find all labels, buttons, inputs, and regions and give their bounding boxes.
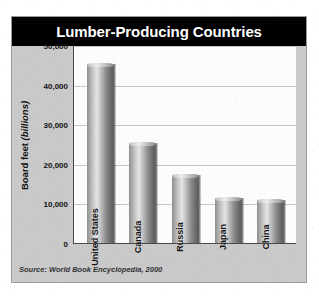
chart-figure: Lumber-Producing Countries Board feet (b… [11,16,307,283]
bar-slot: China [256,46,286,243]
bar-slot: Japan [213,46,243,243]
y-axis-tick-label: 30,000 [44,121,68,130]
bar[interactable]: China [257,200,284,243]
bar-category-label: Japan [218,224,228,250]
bar-slot: Russia [170,46,200,243]
chart-body: Board feet (billions) 010,00020,00030,00… [12,46,306,282]
bar-category-label: China [261,224,271,249]
bar-top-cap [257,199,284,203]
bar-top-cap [215,197,242,201]
y-axis-tick-label: 40,000 [44,81,68,90]
bar-category-label: United States [90,208,100,266]
bar-category-label: Canada [133,221,143,254]
plot-area: United StatesCanadaRussiaJapanChina [73,46,296,244]
bar[interactable]: Canada [129,143,156,243]
bar-top-cap [172,174,199,178]
source-note: Source: World Book Encyclopedia, 2000 [19,265,162,274]
bars-container: United StatesCanadaRussiaJapanChina [74,46,296,243]
y-axis-title-main: Board feet [20,140,31,190]
y-axis-tick-label: 20,000 [44,160,68,169]
chart-title: Lumber-Producing Countries [56,23,262,40]
y-axis-title: Board feet (billions) [16,46,34,244]
y-axis-tick-label: 0 [64,240,68,249]
bar-top-cap [87,63,114,67]
bar[interactable]: Japan [215,198,242,243]
bar-slot: Canada [128,46,158,243]
bar-category-label: Russia [175,222,185,252]
y-axis-tick-label: 50,000 [44,42,68,51]
bar[interactable]: United States [87,64,114,243]
bar[interactable]: Russia [172,175,199,243]
y-axis-title-units: (billions) [20,100,31,140]
y-axis-tick-labels: 010,00020,00030,00040,00050,000 [34,46,70,244]
y-axis-tick-label: 10,000 [44,200,68,209]
bar-slot: United States [85,46,115,243]
bar-top-cap [129,142,156,146]
